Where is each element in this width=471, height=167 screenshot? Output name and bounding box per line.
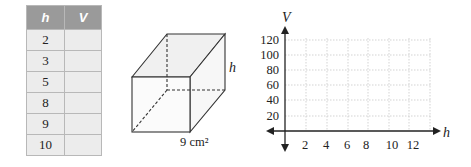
graph-grid [285, 38, 431, 131]
y-axis-label: V [282, 10, 292, 25]
y-tick: 80 [267, 63, 280, 77]
x-tick: 12 [407, 138, 420, 152]
x-tick: 8 [363, 138, 369, 152]
x-tick-labels: 2 4 6 8 10 12 [302, 138, 419, 152]
prism-base-label: 9 cm² [180, 135, 209, 149]
y-tick: 20 [267, 109, 280, 123]
graph-axes [270, 30, 437, 148]
rectangular-prism [132, 34, 225, 132]
figures: h 9 cm² V h 20 40 60 80 100 120 2 4 [0, 0, 471, 167]
x-axis-left-arrow-icon [266, 127, 274, 135]
x-axis-right-arrow-icon [433, 127, 441, 135]
x-tick: 6 [344, 138, 350, 152]
y-tick: 100 [260, 48, 279, 62]
y-axis-down-arrow-icon [281, 144, 289, 152]
x-axis-label: h [443, 125, 450, 140]
prism-height-label: h [229, 60, 236, 75]
x-tick: 2 [302, 138, 308, 152]
y-axis-up-arrow-icon [281, 26, 289, 34]
x-tick: 10 [386, 138, 399, 152]
x-tick: 4 [323, 138, 330, 152]
y-tick: 120 [260, 33, 279, 47]
y-tick: 60 [267, 78, 280, 92]
y-tick-labels: 20 40 60 80 100 120 [260, 33, 279, 123]
y-tick: 40 [267, 93, 280, 107]
